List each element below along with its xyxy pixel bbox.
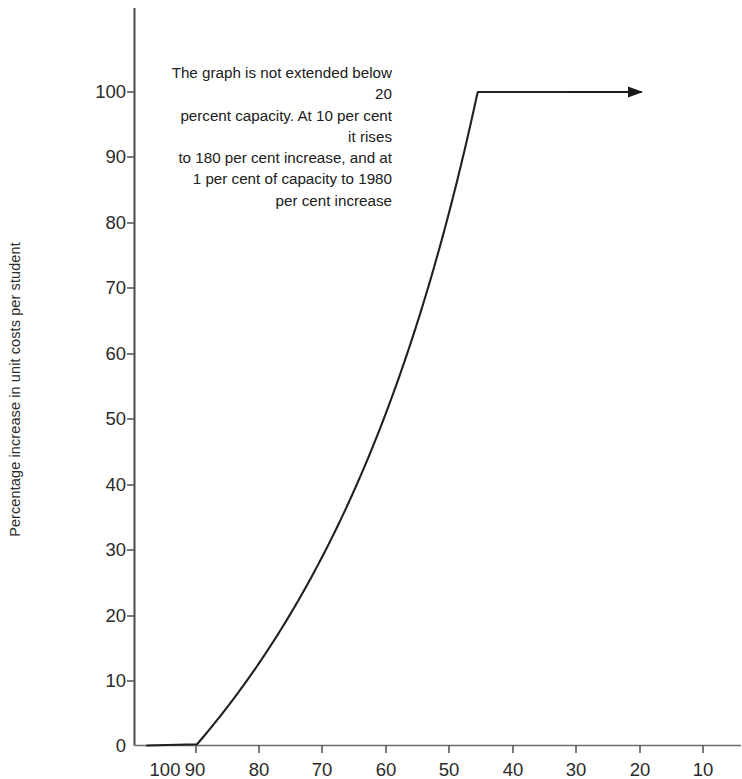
plot-area xyxy=(0,0,742,779)
chart-root: Percentage increase in unit costs per st… xyxy=(0,0,742,779)
annotation-arrow-head xyxy=(628,87,643,98)
cost-increase-curve xyxy=(147,92,641,746)
annotation-arrow xyxy=(568,87,643,98)
y-axis-ticks xyxy=(127,92,134,681)
